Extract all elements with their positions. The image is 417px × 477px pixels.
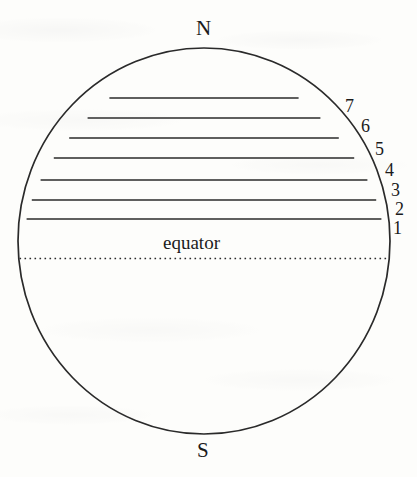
zone-number-3: 3 (391, 181, 400, 199)
zone-number-4: 4 (385, 161, 394, 179)
zone-number-1: 1 (393, 219, 402, 237)
latitude-zone-lines (27, 98, 382, 219)
zone-number-2: 2 (395, 200, 404, 218)
equator-label: equator (163, 233, 220, 252)
zone-number-5: 5 (375, 140, 384, 158)
latitude-zones-figure: N S equator 7654321 (0, 0, 417, 477)
north-pole-label: N (196, 18, 212, 39)
zone-number-6: 6 (361, 117, 370, 135)
zone-number-7: 7 (345, 97, 354, 115)
south-pole-label: S (197, 440, 209, 461)
